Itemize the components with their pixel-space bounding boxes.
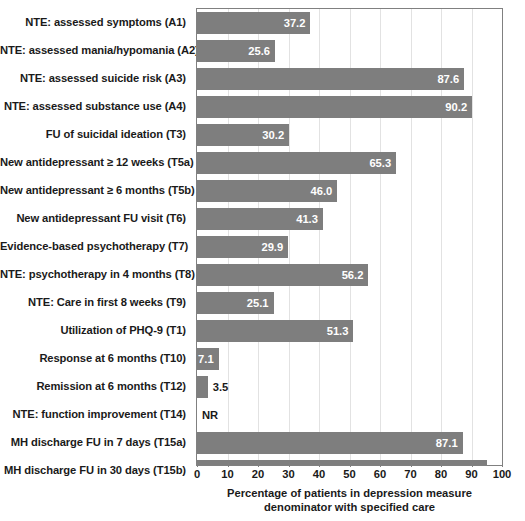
bar-value-label: 65.3	[197, 152, 396, 174]
x-tick-mark	[502, 463, 503, 467]
bar-value-label: 56.2	[197, 264, 368, 286]
category-label: FU of suicidal ideation (T3)	[0, 120, 190, 148]
bar-value-label: 46.0	[197, 180, 337, 202]
bar-value-label: 29.9	[197, 236, 288, 258]
plot-inner: 37.225.687.690.230.265.346.041.329.956.2…	[197, 9, 502, 465]
x-tick-mark	[258, 463, 259, 467]
x-axis-title-line-1: Percentage of patients in depression mea…	[227, 487, 472, 499]
x-axis-title-line-2: denominator with specified care	[196, 500, 503, 514]
category-label-column: NTE: assessed symptoms (A1)NTE: assessed…	[0, 8, 190, 484]
category-label: NTE: psychotherapy in 4 months (T8)	[0, 260, 190, 288]
x-tick-mark	[441, 463, 442, 467]
x-tick-label: 60	[374, 468, 386, 480]
bar-row: 87.1	[197, 429, 502, 457]
x-tick-mark	[411, 463, 412, 467]
x-tick-label: 100	[493, 468, 512, 480]
bar-value-label: 30.2	[197, 124, 289, 146]
bar-value-label: 87.6	[197, 68, 464, 90]
bar-value-label: 41.3	[197, 208, 323, 230]
bar-row: 7.1	[197, 345, 502, 373]
x-tick-label: 70	[404, 468, 416, 480]
bar-row: 56.2	[197, 261, 502, 289]
bar-row: 87.6	[197, 65, 502, 93]
x-axis-title: Percentage of patients in depression mea…	[196, 486, 503, 514]
x-tick-mark	[350, 463, 351, 467]
category-label: New antidepressant FU visit (T6)	[0, 204, 190, 232]
category-label: Response at 6 months (T10)	[0, 344, 190, 372]
category-label: NTE: function improvement (T14)	[0, 400, 190, 428]
bar-value-label: 95.2	[197, 460, 487, 466]
bar	[197, 376, 208, 398]
bar-row: 29.9	[197, 233, 502, 261]
bar-row: 3.5	[197, 373, 502, 401]
bar-value-label: 25.1	[197, 292, 274, 314]
bar-value-label: NR	[202, 404, 218, 426]
bar-row: 90.2	[197, 93, 502, 121]
category-label: New antidepressant ≥ 12 weeks (T5a)	[0, 148, 190, 176]
x-tick-mark	[380, 463, 381, 467]
x-tick-label: 50	[343, 468, 355, 480]
bar-row: 30.2	[197, 121, 502, 149]
bar-value-label: 3.5	[213, 376, 229, 398]
category-label: NTE: assessed mania/hypomania (A2)	[0, 36, 190, 64]
category-label: NTE: assessed suicide risk (A3)	[0, 64, 190, 92]
bar-row: 65.3	[197, 149, 502, 177]
x-tick-mark	[472, 463, 473, 467]
category-label: NTE: assessed symptoms (A1)	[0, 8, 190, 36]
bar-value-label: 90.2	[197, 96, 472, 118]
category-label: Evidence-based psychotherapy (T7)	[0, 232, 190, 260]
bar-value-label: 87.1	[197, 432, 463, 454]
x-tick-mark	[319, 463, 320, 467]
bar-row: NR	[197, 401, 502, 429]
category-label: MH discharge FU in 30 days (T15b)	[0, 456, 190, 484]
bar-row: 25.1	[197, 289, 502, 317]
bar-row: 41.3	[197, 205, 502, 233]
category-label: Remission at 6 months (T12)	[0, 372, 190, 400]
bar-value-label: 37.2	[197, 12, 310, 34]
x-tick-label: 30	[282, 468, 294, 480]
bar-row: 37.2	[197, 9, 502, 37]
category-label: MH discharge FU in 7 days (T15a)	[0, 428, 190, 456]
bar-value-label: 7.1	[197, 348, 219, 370]
x-axis-ticks: 0102030405060708090100	[196, 468, 503, 484]
x-tick-label: 0	[194, 468, 200, 480]
x-tick-mark	[228, 463, 229, 467]
bar-chart-figure: NTE: assessed symptoms (A1)NTE: assessed…	[0, 0, 525, 521]
plot-area: 37.225.687.690.230.265.346.041.329.956.2…	[196, 8, 503, 466]
category-label: NTE: assessed substance use (A4)	[0, 92, 190, 120]
bar-row: 25.6	[197, 37, 502, 65]
category-label: Utilization of PHQ-9 (T1)	[0, 316, 190, 344]
x-tick-label: 80	[435, 468, 447, 480]
x-tick-label: 90	[465, 468, 477, 480]
bar-value-label: 25.6	[197, 40, 275, 62]
category-label: New antidepressant ≥ 6 months (T5b)	[0, 176, 190, 204]
bar-value-label: 51.3	[197, 320, 353, 342]
bar-series: 37.225.687.690.230.265.346.041.329.956.2…	[197, 9, 502, 466]
x-tick-label: 10	[221, 468, 233, 480]
x-tick-label: 20	[252, 468, 264, 480]
bar-row: 46.0	[197, 177, 502, 205]
bar-row: 51.3	[197, 317, 502, 345]
x-tick-label: 40	[313, 468, 325, 480]
category-label: NTE: Care in first 8 weeks (T9)	[0, 288, 190, 316]
x-tick-mark	[289, 463, 290, 467]
x-tick-mark	[197, 463, 198, 467]
